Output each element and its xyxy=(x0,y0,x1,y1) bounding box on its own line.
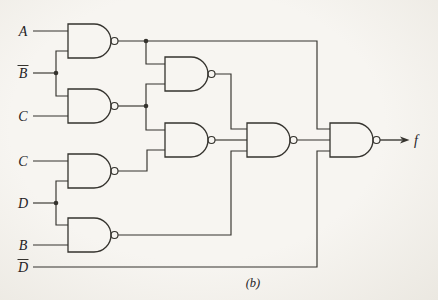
nand-gate-8 xyxy=(330,123,373,157)
input-label-c: C xyxy=(18,154,28,169)
nand-gate-6-bubble-icon xyxy=(208,137,215,144)
wire-gate1-to-gate5 xyxy=(146,41,165,64)
input-label-d: D xyxy=(17,196,28,211)
nand-circuit-svg: ABCCDBDf(b) xyxy=(0,0,438,300)
junction-dot xyxy=(54,201,59,206)
output-label: f xyxy=(414,133,420,148)
input-label-b-bar: B xyxy=(19,66,28,81)
input-label-a: A xyxy=(18,24,28,39)
junction-dot xyxy=(144,39,149,44)
nand-gate-3-bubble-icon xyxy=(111,168,118,175)
nand-gate-4 xyxy=(68,218,111,252)
nand-gate-2-bubble-icon xyxy=(111,103,118,110)
junction-dot xyxy=(144,104,149,109)
nand-gate-5-bubble-icon xyxy=(208,71,215,78)
input-label-b: B xyxy=(19,238,28,253)
input-label-c: C xyxy=(18,109,28,124)
input-label-d-bar: D xyxy=(17,260,28,275)
nand-gate-1-bubble-icon xyxy=(111,38,118,45)
nand-gate-3 xyxy=(68,154,111,188)
circuit-diagram: ABCCDBDf(b) xyxy=(0,0,438,300)
nand-gate-6 xyxy=(165,123,208,157)
wire-input-dbar xyxy=(33,151,330,267)
figure-caption: (b) xyxy=(246,276,261,290)
nand-gate-8-bubble-icon xyxy=(373,137,380,144)
nand-gate-7 xyxy=(247,123,290,157)
junction-dot xyxy=(54,71,59,76)
wire-gate4-out xyxy=(118,151,247,235)
wire-gate2-to-gate5 xyxy=(146,84,165,106)
nand-gate-4-bubble-icon xyxy=(111,232,118,239)
nand-gate-2 xyxy=(68,89,111,123)
wire-gate5-out xyxy=(215,74,247,129)
nand-gate-5 xyxy=(165,57,208,91)
nand-gate-1 xyxy=(68,24,111,58)
nand-gate-7-bubble-icon xyxy=(290,137,297,144)
wire-gate1-out xyxy=(118,41,330,129)
wire-gate2-to-gate6 xyxy=(146,106,165,130)
wire-gate3-out xyxy=(118,150,165,171)
